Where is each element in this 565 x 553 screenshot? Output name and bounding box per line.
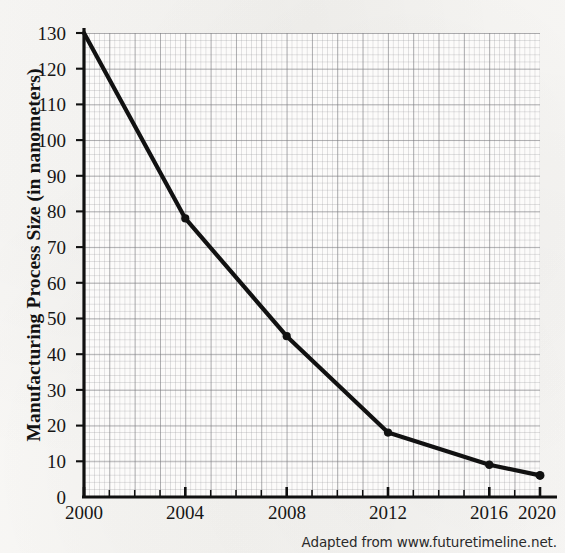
x-tick-label: 2000 (49, 503, 119, 522)
x-tick-label: 2020 (502, 503, 565, 522)
x-axis-tick-labels: 2000 2004 2008 2012 2016 2020 (0, 0, 565, 553)
source-attribution: Adapted from www.futuretimeline.net. (302, 534, 557, 550)
x-tick-label: 2012 (353, 503, 423, 522)
line-chart-figure: p Manufacturing Process Size (in nanomet… (0, 0, 565, 553)
x-tick-label: 2004 (150, 503, 220, 522)
x-tick-label: 2008 (252, 503, 322, 522)
